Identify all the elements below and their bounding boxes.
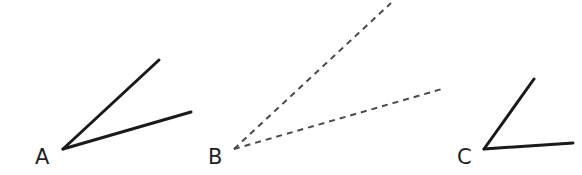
angles-diagram: A B C — [0, 0, 582, 175]
angle-b: B — [208, 3, 442, 169]
angle-c-ray-lower — [484, 143, 573, 149]
angle-c-ray-upper — [484, 79, 534, 149]
angle-b-ray-lower — [234, 89, 442, 149]
angle-b-label: B — [208, 145, 222, 169]
angle-c: C — [457, 79, 573, 169]
angle-c-label: C — [457, 145, 472, 169]
angle-a-label: A — [35, 145, 50, 169]
angle-a: A — [35, 60, 191, 169]
